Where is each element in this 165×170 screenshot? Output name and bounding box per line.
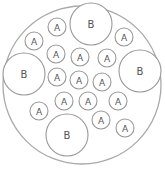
circle-label: A <box>54 23 61 33</box>
large-circle-b: B <box>70 3 112 45</box>
small-circle-a: A <box>116 119 134 137</box>
small-circle-a: A <box>92 111 110 129</box>
circle-label: A <box>76 76 83 86</box>
small-circle-a: A <box>93 73 111 91</box>
circle-label: A <box>36 107 43 117</box>
circle-label: B <box>64 130 71 141</box>
circle-label: A <box>85 97 92 107</box>
small-circle-a: A <box>79 92 97 110</box>
large-circle-b: B <box>46 114 88 156</box>
small-circle-a: A <box>47 45 65 63</box>
circle-label: A <box>104 54 111 64</box>
circle-label: A <box>31 37 38 47</box>
circle-label: A <box>61 97 68 107</box>
circle-label: A <box>98 116 105 126</box>
circle-label: A <box>121 33 128 43</box>
circle-label: A <box>54 73 61 83</box>
small-circle-a: A <box>48 68 66 86</box>
small-circle-a: A <box>109 92 127 110</box>
small-circle-a: A <box>55 92 73 110</box>
small-circle-a: A <box>115 28 133 46</box>
circle-label: A <box>99 78 106 88</box>
circle-label: B <box>137 66 144 77</box>
circle-label: B <box>21 69 28 80</box>
circle-label: A <box>77 53 84 63</box>
circle-label: B <box>88 19 95 30</box>
large-circle-b: B <box>3 53 45 95</box>
small-circle-a: A <box>48 18 66 36</box>
circle-label: A <box>53 50 60 60</box>
circle-packing-diagram: BAAAAAABBAAAAAAABAA <box>0 0 165 170</box>
small-circle-a: A <box>98 49 116 67</box>
large-circle-b: B <box>119 50 161 92</box>
small-circle-a: A <box>25 32 43 50</box>
small-circle-a: A <box>71 48 89 66</box>
circle-label: A <box>115 97 122 107</box>
small-circle-a: A <box>30 102 48 120</box>
circle-label: A <box>122 124 129 134</box>
small-circle-a: A <box>70 71 88 89</box>
